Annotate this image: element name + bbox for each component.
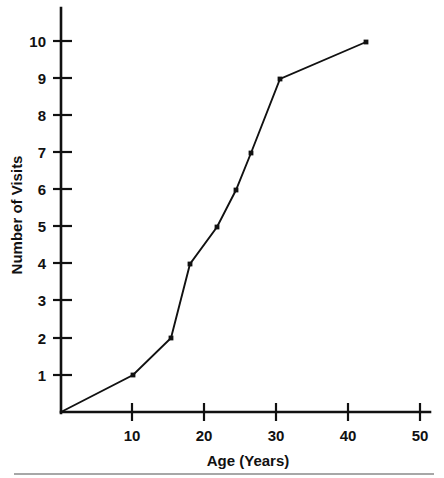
data-point-15-2 <box>169 336 174 341</box>
y-axis-tick-labels: 10 9 8 7 6 5 4 3 2 1 <box>29 33 46 384</box>
x-tick-label-30: 30 <box>268 427 285 444</box>
x-tick-label-50: 50 <box>412 427 429 444</box>
x-axis-tick-labels: 10 20 30 40 50 <box>124 427 429 444</box>
x-axis-title: Age (Years) <box>207 452 290 469</box>
y-tick-label-4: 4 <box>38 255 47 272</box>
chart-figure: 10 9 8 7 6 5 4 3 2 1 10 20 30 40 50 <box>0 0 444 478</box>
data-point-18-4 <box>188 262 193 267</box>
y-tick-label-6: 6 <box>38 181 46 198</box>
y-tick-label-7: 7 <box>38 144 46 161</box>
y-tick-label-9: 9 <box>38 70 46 87</box>
y-tick-label-2: 2 <box>38 330 46 347</box>
y-axis-title: Number of Visits <box>8 156 25 275</box>
data-point-26-7 <box>249 151 254 156</box>
data-point-24-6 <box>234 188 239 193</box>
x-tick-label-20: 20 <box>196 427 213 444</box>
line-chart: 10 9 8 7 6 5 4 3 2 1 10 20 30 40 50 <box>0 0 444 478</box>
x-tick-label-40: 40 <box>340 427 357 444</box>
y-tick-label-3: 3 <box>38 292 46 309</box>
x-tick-label-10: 10 <box>124 427 141 444</box>
data-point-42-10 <box>364 40 369 45</box>
y-tick-label-8: 8 <box>38 107 46 124</box>
data-point-10-1 <box>131 373 136 378</box>
data-series-markers <box>131 40 369 378</box>
data-point-22-5 <box>215 225 220 230</box>
data-point-30-9 <box>278 77 283 82</box>
y-axis-ticks <box>53 41 72 375</box>
data-series-line <box>61 42 366 412</box>
y-tick-label-10: 10 <box>29 33 46 50</box>
y-tick-label-1: 1 <box>38 367 46 384</box>
y-tick-label-5: 5 <box>38 218 46 235</box>
